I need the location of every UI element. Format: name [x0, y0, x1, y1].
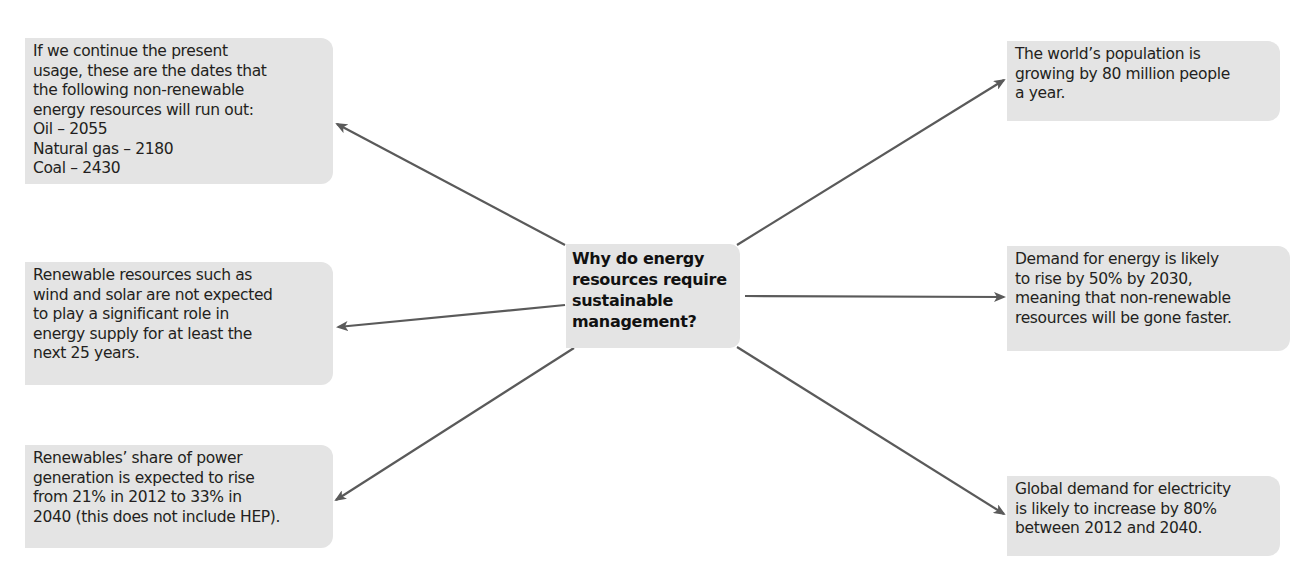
- central-question: Why do energy resources require sustaina…: [566, 244, 740, 348]
- arrow-to-top-left: [337, 124, 565, 245]
- node-renewables-share: Renewables’ share of power generation is…: [25, 445, 333, 548]
- node-renewables-not-significant: Renewable resources such as wind and sol…: [25, 262, 333, 385]
- node-population-growth: The world’s population is growing by 80 …: [1007, 41, 1280, 121]
- node-non-renewable-run-out: If we continue the present usage, these …: [25, 38, 333, 184]
- node-energy-demand: Demand for energy is likely to rise by 5…: [1007, 246, 1290, 351]
- arrow-to-middle-left: [338, 305, 565, 327]
- arrow-to-top-right: [737, 80, 1004, 245]
- arrow-to-bottom-left: [336, 348, 574, 500]
- arrow-to-middle-right: [745, 296, 1004, 297]
- arrow-to-bottom-right: [737, 347, 1004, 514]
- node-electricity-demand: Global demand for electricity is likely …: [1007, 476, 1280, 556]
